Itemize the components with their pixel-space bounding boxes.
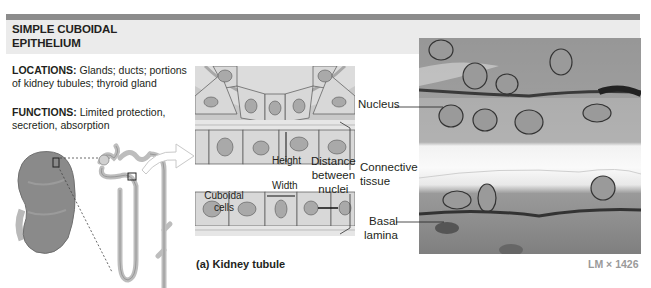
label-basal-lamina: Basal lamina [364, 214, 398, 242]
magnification-label: LM × 1426 [588, 258, 639, 270]
connective-line-2: tissue [360, 174, 418, 188]
basal-line-1: Basal [364, 214, 398, 228]
distance-line-1: Distance [311, 154, 356, 168]
micrograph-image [419, 38, 641, 254]
zoom-arrow-icon [140, 140, 200, 180]
basal-line-2: lamina [364, 228, 398, 242]
label-cuboidal-cells: Cuboidal cells [204, 190, 244, 214]
label-width: Width [272, 180, 298, 192]
distance-line-2: between [311, 168, 356, 182]
distance-line-3: nuclei [311, 182, 356, 196]
nucleus-leader-line [395, 104, 445, 110]
label-height: Height [272, 155, 301, 167]
basal-lamina-leader-line [396, 219, 446, 225]
label-nucleus: Nucleus [358, 97, 400, 111]
label-distance-between-nuclei: Distance between nuclei [311, 154, 356, 196]
figure-caption: (a) Kidney tubule [196, 258, 285, 270]
cuboidal-cells-text: Cuboidal cells [204, 190, 244, 214]
label-connective-tissue: Connective tissue [360, 160, 418, 188]
connective-line-1: Connective [360, 160, 418, 174]
